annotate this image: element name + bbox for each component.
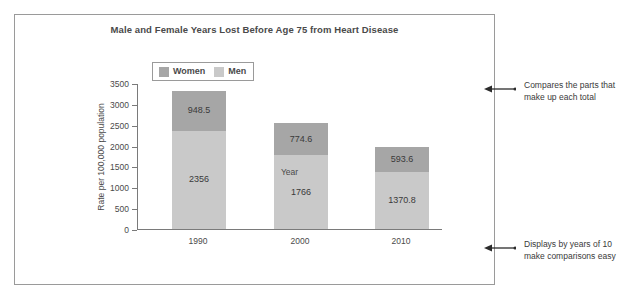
y-axis-tick-label: 3000: [110, 100, 129, 110]
bar-value-label: 1766: [291, 188, 311, 197]
legend-item-women: Women: [159, 67, 205, 77]
y-axis-tick-mark: [132, 126, 137, 127]
plot-area: 3500300025002000150010005000 2356948.517…: [137, 84, 442, 230]
bar-segment-men-2010[interactable]: 1370.8: [375, 172, 429, 229]
x-axis-tick-label-2010: 2010: [374, 236, 428, 246]
y-axis-tick-mark: [132, 147, 137, 148]
y-axis-tick-label: 0: [124, 225, 129, 235]
x-axis-tick-label-2000: 2000: [273, 236, 327, 246]
y-axis-tick-mark: [132, 105, 137, 106]
legend-swatch-women: [159, 67, 169, 77]
y-axis-tick-mark: [132, 188, 137, 189]
y-axis-tick-mark: [132, 209, 137, 210]
y-axis-tick-label: 3500: [110, 79, 129, 89]
y-axis-tick-label: 2000: [110, 142, 129, 152]
bar-value-label: 774.6: [290, 135, 313, 144]
chart-title: Male and Female Years Lost Before Age 75…: [14, 24, 495, 35]
bar-group-2010[interactable]: 1370.8593.6: [375, 147, 429, 229]
y-axis-tick-label: 1500: [110, 162, 129, 172]
x-axis-line: [137, 229, 442, 230]
legend-label-women: Women: [173, 67, 205, 76]
legend-swatch-men: [214, 67, 224, 77]
legend-item-men: Men: [214, 67, 246, 77]
y-axis-tick-label: 500: [115, 204, 129, 214]
bar-series-group: 2356948.51766774.61370.8593.6: [138, 84, 442, 229]
y-axis-tick-label: 2500: [110, 121, 129, 131]
y-axis-title: Rate per 100,000 population: [94, 84, 108, 230]
chart-legend: Women Men: [152, 62, 254, 81]
annotation-parts-of-total-text: Compares the parts that make up each tot…: [524, 80, 626, 103]
bar-value-label: 948.5: [188, 106, 211, 115]
bar-segment-women-1990[interactable]: 948.5: [172, 91, 226, 131]
screenshot-root: Male and Female Years Lost Before Age 75…: [0, 0, 626, 304]
y-axis-tick-label: 1000: [110, 183, 129, 193]
y-axis-tick-mark: [132, 84, 137, 85]
bar-value-label: 1370.8: [388, 196, 416, 205]
y-axis-title-text: Rate per 100,000 population: [96, 103, 106, 210]
arrow-left-icon: [484, 243, 516, 253]
bar-segment-men-1990[interactable]: 2356: [172, 131, 226, 229]
x-axis-title: Year: [137, 167, 442, 177]
legend-label-men: Men: [228, 67, 246, 76]
bar-segment-women-2000[interactable]: 774.6: [274, 123, 328, 155]
bar-value-label: 593.6: [391, 155, 414, 164]
bar-group-1990[interactable]: 2356948.5: [172, 91, 226, 229]
arrow-left-icon: [484, 84, 516, 94]
y-axis-tick-mark: [132, 230, 137, 231]
x-axis-tick-label-1990: 1990: [171, 236, 225, 246]
annotation-decade-intervals-text: Displays by years of 10 make comparisons…: [524, 239, 626, 262]
